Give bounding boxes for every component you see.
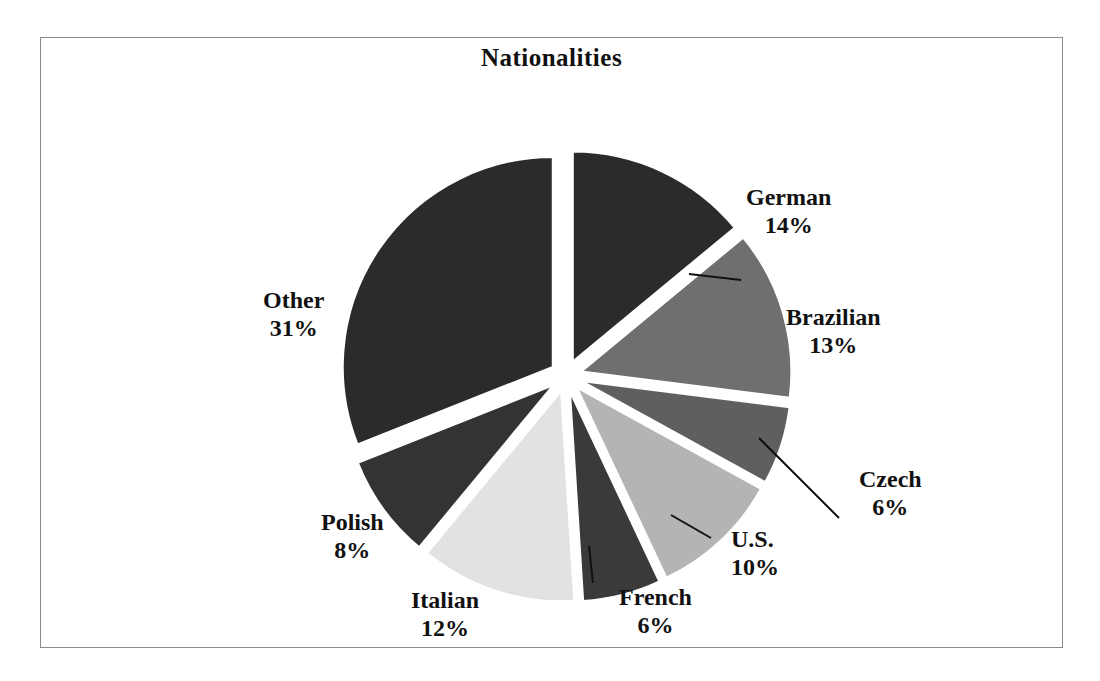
pie-label-italian: Italian 12% [411, 586, 479, 643]
pie-label-german: German 14% [746, 183, 831, 240]
pie-label-other-pct: 31% [263, 314, 324, 342]
pie-label-italian-pct: 12% [411, 614, 479, 642]
pie-label-brazilian-pct: 13% [786, 331, 881, 359]
pie-chart-graphic [41, 38, 1061, 646]
pie-label-french-name: French [619, 583, 692, 611]
pie-label-brazilian-name: Brazilian [786, 303, 881, 331]
pie-label-other: Other 31% [263, 286, 324, 343]
pie-label-polish: Polish 8% [321, 508, 384, 565]
pie-label-french-pct: 6% [619, 611, 692, 639]
pie-label-german-name: German [746, 183, 831, 211]
pie-label-us-name: U.S. [731, 525, 779, 553]
pie-label-us-pct: 10% [731, 553, 779, 581]
pie-label-other-name: Other [263, 286, 324, 314]
pie-label-czech-name: Czech [859, 465, 922, 493]
pie-label-german-pct: 14% [746, 211, 831, 239]
pie-label-polish-name: Polish [321, 508, 384, 536]
chart-frame: Nationalities [40, 37, 1063, 648]
pie-label-czech-pct: 6% [859, 493, 922, 521]
leader-line-czech [759, 438, 839, 518]
pie-label-czech: Czech 6% [859, 465, 922, 522]
pie-label-italian-name: Italian [411, 586, 479, 614]
pie-label-french: French 6% [619, 583, 692, 640]
pie-label-brazilian: Brazilian 13% [786, 303, 881, 360]
pie-label-us: U.S. 10% [731, 525, 779, 582]
pie-label-polish-pct: 8% [321, 536, 384, 564]
